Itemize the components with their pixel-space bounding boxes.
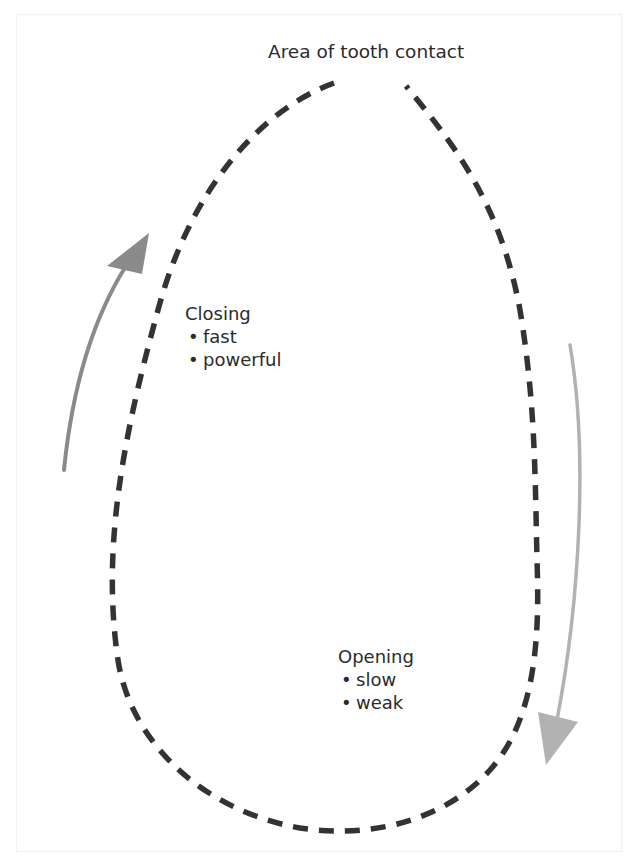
tooth-contact-title: Area of tooth contact: [268, 41, 464, 63]
opening-heading: Opening: [338, 645, 414, 668]
opening-phase-label: Opening slow weak: [338, 645, 414, 714]
opening-arrow-icon: [538, 345, 580, 765]
closing-heading: Closing: [185, 302, 281, 325]
closing-phase-label: Closing fast powerful: [185, 302, 281, 371]
closing-item: fast: [185, 325, 281, 348]
chewing-cycle-loop: [112, 83, 537, 831]
chewing-cycle-diagram: [0, 0, 637, 868]
closing-arrow-icon: [64, 233, 149, 470]
opening-item: weak: [338, 691, 414, 714]
opening-item: slow: [338, 668, 414, 691]
closing-item: powerful: [185, 348, 281, 371]
